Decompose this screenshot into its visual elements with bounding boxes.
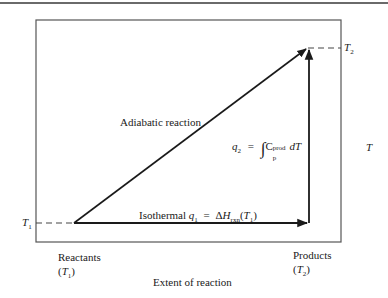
adiabatic-arrow bbox=[74, 49, 306, 223]
y-axis-label: T bbox=[366, 141, 372, 153]
adiabatic-label: Adiabatic reaction bbox=[120, 116, 201, 128]
reactants-label: Reactants (T1) bbox=[58, 251, 101, 282]
heating-equation: q2 = ∫Cprodp dT bbox=[232, 140, 301, 157]
t2-tick-label: T2 bbox=[344, 41, 354, 58]
x-axis-label: Extent of reaction bbox=[153, 276, 232, 288]
isothermal-equation: Isothermal q1 = ΔHrxn(T1) bbox=[139, 209, 257, 226]
t1-tick-label: T1 bbox=[22, 216, 32, 233]
products-label: Products (T2) bbox=[293, 249, 332, 280]
